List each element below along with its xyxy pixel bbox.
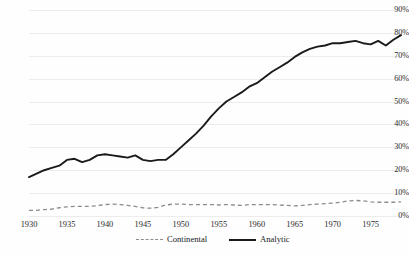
x-axis-tick-label: 1930	[9, 221, 49, 229]
legend-swatch-continental	[136, 236, 163, 243]
y-axis-tick-label: 20%	[383, 166, 409, 174]
x-axis-tick-label: 1970	[313, 221, 353, 229]
y-axis-tick-label: 60%	[383, 75, 409, 83]
x-axis-tick-label: 1965	[275, 221, 315, 229]
series-line-analytic	[29, 35, 401, 177]
legend-item-analytic: Analytic	[229, 235, 290, 244]
x-axis-tick-label: 1950	[161, 221, 201, 229]
y-axis-tick-label: 10%	[383, 189, 409, 197]
y-axis-tick-label: 30%	[383, 143, 409, 151]
legend-label-analytic: Analytic	[260, 235, 290, 244]
y-axis-tick-label: 40%	[383, 120, 409, 128]
x-axis-tick-label: 1935	[47, 221, 87, 229]
chart-container: 0%10%20%30%40%50%60%70%80%90% 1930193519…	[0, 0, 409, 256]
legend-label-continental: Continental	[167, 235, 207, 244]
y-axis-tick-label: 90%	[383, 6, 409, 14]
y-axis-tick-label: 50%	[383, 98, 409, 106]
y-axis-tick-label: 0%	[383, 212, 409, 220]
y-axis-tick-label: 70%	[383, 52, 409, 60]
gridline	[29, 216, 401, 217]
legend-swatch-analytic	[229, 236, 256, 243]
plot-area	[29, 10, 401, 216]
x-axis-tick-label: 1975	[351, 221, 391, 229]
data-series-layer	[29, 10, 401, 216]
x-axis-tick-label: 1955	[199, 221, 239, 229]
x-axis-tick-label: 1940	[85, 221, 125, 229]
series-line-continental	[29, 200, 401, 210]
legend-item-continental: Continental	[136, 235, 207, 244]
chart-legend: Continental Analytic	[0, 232, 409, 250]
y-axis-tick-label: 80%	[383, 29, 409, 37]
x-axis-tick-label: 1960	[237, 221, 277, 229]
x-axis-tick-label: 1945	[123, 221, 163, 229]
